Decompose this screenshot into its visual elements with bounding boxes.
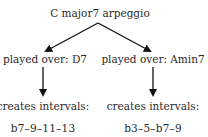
left-intervals: b7–9–11–13 [11, 122, 76, 134]
right-result-label: creates intervals: [107, 100, 200, 112]
right-context-label: played over: Amin7 [101, 53, 204, 65]
diagram-edges [0, 0, 208, 137]
root-node-label: C major7 arpeggio [50, 7, 150, 19]
arrow-root-to-right [98, 23, 150, 51]
left-context-label: played over: D7 [3, 53, 87, 65]
right-intervals: b3–5–b7–9 [124, 122, 182, 134]
left-result-label: creates intervals: [0, 100, 89, 112]
arpeggio-diagram: C major7 arpeggio played over: D7 played… [0, 0, 208, 137]
arrow-root-to-left [46, 23, 98, 51]
